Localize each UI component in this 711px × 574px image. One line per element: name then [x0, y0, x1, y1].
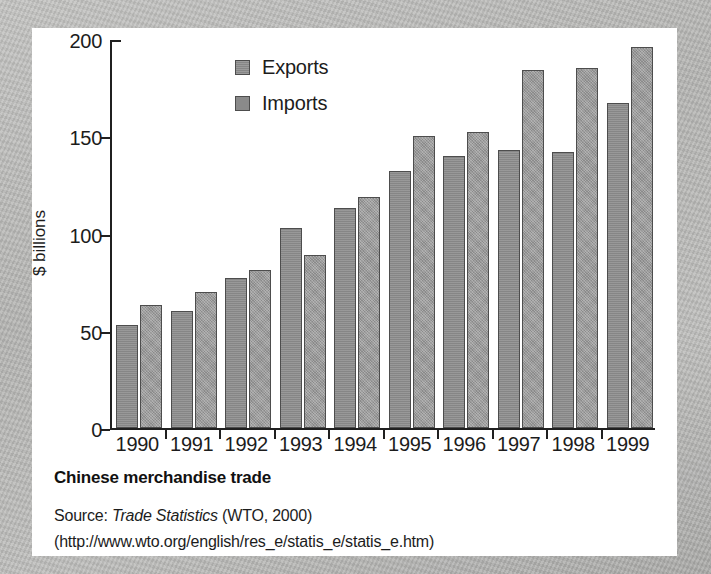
bar-exports-1994: [334, 208, 356, 428]
x-axis-tick: [546, 430, 548, 439]
y-axis-tick-label: 50: [80, 321, 102, 344]
y-axis-tick-label: 150: [70, 127, 102, 150]
x-axis-tick: [328, 430, 330, 439]
y-axis-tick: [101, 235, 110, 237]
bar-exports-1997: [498, 150, 520, 428]
bar-exports-1996: [443, 156, 465, 428]
x-axis-tick: [601, 430, 603, 439]
x-axis-label-1994: 1994: [334, 433, 377, 456]
y-axis-tick-label: 100: [70, 224, 102, 247]
x-axis-tick: [274, 430, 276, 439]
x-axis-label-1997: 1997: [497, 433, 540, 456]
legend-item-exports: Exports: [235, 56, 328, 79]
figure-card: $ billions 050100150200 1990199119921993…: [32, 28, 677, 556]
bar-exports-1991: [171, 311, 193, 428]
x-axis-tick: [492, 430, 494, 439]
x-axis-tick: [165, 430, 167, 439]
y-axis-title: $ billions: [32, 210, 50, 276]
x-axis-tick: [437, 430, 439, 439]
source-prefix: Source:: [54, 507, 112, 524]
x-axis-tick: [219, 430, 221, 439]
source-suffix: (WTO, 2000): [218, 507, 312, 524]
plot-area: 050100150200 199019911992199319941995199…: [110, 41, 655, 430]
legend-label-imports: Imports: [262, 92, 327, 115]
legend-swatch-imports-icon: [235, 96, 250, 111]
bar-chart: $ billions 050100150200 1990199119921993…: [32, 28, 677, 448]
bar-imports-1990: [140, 305, 162, 428]
chart-legend: Exports Imports: [235, 56, 328, 128]
bar-imports-1994: [358, 197, 380, 428]
bar-exports-1998: [552, 152, 574, 428]
bar-exports-1990: [116, 325, 138, 428]
bar-exports-1992: [225, 278, 247, 428]
y-axis-tick: [101, 429, 110, 431]
bar-imports-1991: [195, 292, 217, 428]
bar-imports-1999: [631, 47, 653, 428]
bar-imports-1997: [522, 70, 544, 428]
y-axis-tick: [110, 40, 121, 42]
x-axis-label-1998: 1998: [552, 433, 595, 456]
bar-imports-1998: [576, 68, 598, 428]
legend-swatch-exports-icon: [235, 60, 250, 75]
legend-item-imports: Imports: [235, 92, 328, 115]
bar-imports-1995: [413, 136, 435, 428]
x-axis-tick: [383, 430, 385, 439]
figure-caption: Chinese merchandise trade Source: Trade …: [54, 468, 664, 554]
source-title: Trade Statistics: [112, 507, 218, 524]
y-axis-tick: [101, 137, 110, 139]
caption-source-url: (http://www.wto.org/english/res_e/statis…: [54, 529, 664, 555]
caption-title: Chinese merchandise trade: [54, 468, 664, 488]
y-axis-tick-label: 0: [91, 419, 102, 442]
y-axis-tick: [101, 332, 110, 334]
y-axis-line: [110, 41, 112, 430]
caption-source-line: Source: Trade Statistics (WTO, 2000): [54, 503, 664, 529]
bar-exports-1999: [607, 103, 629, 428]
x-axis-label-1995: 1995: [388, 433, 431, 456]
bar-exports-1995: [389, 171, 411, 428]
x-axis-label-1996: 1996: [443, 433, 486, 456]
x-axis-label-1999: 1999: [606, 433, 649, 456]
x-axis-label-1991: 1991: [170, 433, 213, 456]
x-axis-label-1993: 1993: [279, 433, 322, 456]
bar-exports-1993: [280, 228, 302, 428]
x-axis-label-1990: 1990: [116, 433, 159, 456]
legend-label-exports: Exports: [262, 56, 328, 79]
bar-imports-1992: [249, 270, 271, 428]
y-axis-tick-label: 200: [70, 30, 102, 53]
x-axis-label-1992: 1992: [225, 433, 268, 456]
bar-imports-1996: [467, 132, 489, 428]
bar-imports-1993: [304, 255, 326, 428]
